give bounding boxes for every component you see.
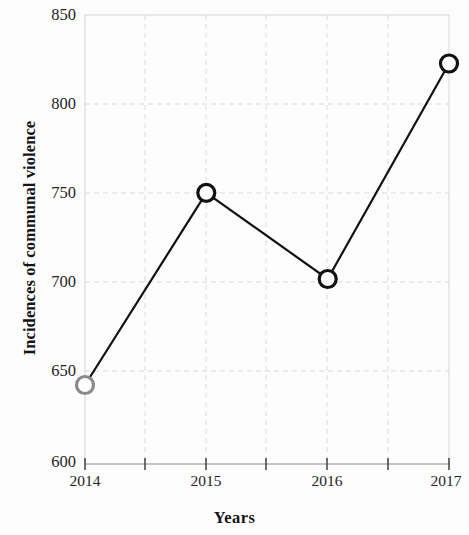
data-point-2017 bbox=[441, 55, 458, 72]
data-point-2015 bbox=[198, 184, 215, 201]
plot-frame bbox=[85, 15, 449, 464]
plot-canvas bbox=[0, 0, 469, 535]
horizontal-gridlines bbox=[85, 104, 449, 371]
data-line-series bbox=[85, 64, 449, 386]
data-point-2014 bbox=[77, 377, 94, 394]
line-chart-figure: Incidences of communal violence 850 800 … bbox=[0, 0, 469, 535]
data-point-markers bbox=[77, 55, 458, 394]
data-point-2016 bbox=[319, 271, 336, 288]
vertical-gridlines bbox=[145, 15, 388, 464]
plot-border bbox=[85, 15, 449, 464]
